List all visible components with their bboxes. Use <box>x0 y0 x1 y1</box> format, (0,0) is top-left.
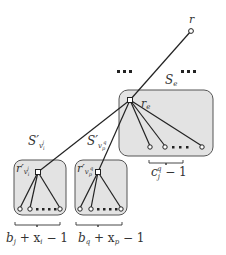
node-r-vp <box>96 170 101 175</box>
node-re <box>128 98 133 103</box>
label-s-vp: S′vpq <box>87 134 106 152</box>
node-root <box>189 29 194 34</box>
label-brace-vp: bq + xp − 1 <box>78 231 144 246</box>
tree-diagram: r re Se S′vij S′vpq r′vij r′vpq cjq − 1 … <box>0 0 226 255</box>
label-brace-se: cjq − 1 <box>151 165 187 181</box>
node-r-vi <box>36 170 41 175</box>
label-root: r <box>189 13 195 26</box>
label-s-vi: S′vij <box>28 134 45 151</box>
label-se: Se <box>165 73 177 88</box>
label-r-vi: r′vij <box>16 162 30 177</box>
label-brace-vi: bj + xi − 1 <box>6 231 68 246</box>
diagram-canvas: r re Se S′vij S′vpq r′vij r′vpq cjq − 1 … <box>0 0 226 255</box>
